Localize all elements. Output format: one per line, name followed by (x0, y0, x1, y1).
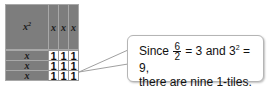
explanation-callout: Since 62 = 3 and 32 = 9, there are nine … (127, 35, 264, 82)
fraction-six-halves: 62 (173, 42, 181, 61)
callout-line-1: Since 62 = 3 and 32 = 9, (139, 41, 263, 75)
callout-line-2: there are nine 1-tiles. (139, 75, 263, 89)
